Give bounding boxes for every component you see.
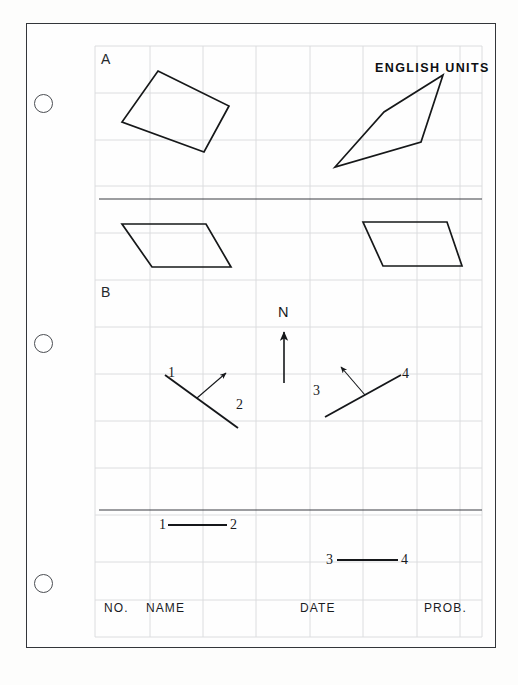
scanned-worksheet-page: A ENGLISH UNITS B N 1 2 3 4 1 2 3 4 NO. … [0, 0, 518, 685]
page-border-frame [26, 23, 496, 648]
field-prob-label: PROB. [424, 602, 467, 614]
field-date-label: DATE [300, 602, 336, 614]
punch-hole-middle [34, 334, 53, 353]
bearing-2-label: 2 [236, 398, 243, 412]
segment-4-label: 4 [401, 553, 408, 567]
english-units-title: ENGLISH UNITS [375, 62, 490, 75]
bearing-4-label: 4 [402, 367, 409, 381]
section-b-label: B [101, 285, 111, 299]
segment-2-label: 2 [230, 518, 237, 532]
punch-hole-top [34, 94, 53, 113]
field-no-label: NO. [104, 602, 129, 614]
field-name-label: NAME [146, 602, 185, 614]
bearing-3-label: 3 [313, 384, 320, 398]
segment-1-label: 1 [159, 518, 166, 532]
punch-hole-bottom [34, 574, 53, 593]
segment-3-label: 3 [326, 553, 333, 567]
bearing-1-label: 1 [168, 366, 175, 380]
section-a-label: A [101, 52, 111, 66]
north-label: N [278, 305, 288, 320]
